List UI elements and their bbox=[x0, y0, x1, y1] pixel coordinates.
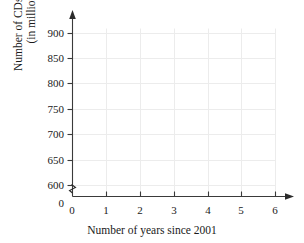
xtick-label-3: 3 bbox=[171, 205, 177, 216]
x-axis-arrowhead bbox=[285, 193, 294, 200]
y-axis-title-line-1: Number of CDs shipped bbox=[12, 0, 24, 71]
ytick-label-zero: 0 bbox=[40, 198, 64, 209]
x-axis-title: Number of years since 2001 bbox=[0, 225, 304, 237]
x-axis-ticks bbox=[107, 192, 276, 197]
chart-figure: 900 850 800 750 700 650 600 0 0 1 2 3 4 … bbox=[0, 0, 304, 243]
xtick-label-4: 4 bbox=[205, 205, 211, 216]
xtick-label-6: 6 bbox=[272, 205, 278, 216]
y-axis-arrowhead bbox=[69, 10, 76, 19]
ytick-label-700: 700 bbox=[40, 129, 64, 140]
ytick-label-750: 750 bbox=[40, 104, 64, 115]
xtick-label-1: 1 bbox=[103, 205, 109, 216]
ytick-label-850: 850 bbox=[40, 53, 64, 64]
y-axis-ticks bbox=[68, 34, 73, 186]
xtick-label-0: 0 bbox=[69, 205, 75, 216]
ytick-label-800: 800 bbox=[40, 78, 64, 89]
xtick-label-2: 2 bbox=[137, 205, 143, 216]
y-axis-title-line-2: (in millions) bbox=[25, 0, 38, 85]
ytick-label-600: 600 bbox=[40, 180, 64, 191]
ytick-label-650: 650 bbox=[40, 155, 64, 166]
vertical-gridlines bbox=[107, 29, 276, 197]
xtick-label-5: 5 bbox=[238, 205, 244, 216]
y-axis-title: Number of CDs shipped (in millions) bbox=[12, 0, 42, 85]
ytick-label-900: 900 bbox=[40, 28, 64, 39]
